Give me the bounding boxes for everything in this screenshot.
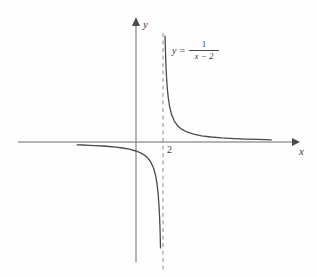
equation-left-side: y xyxy=(172,46,176,56)
equation-fraction: 1 x − 2 xyxy=(189,40,219,61)
graph-figure: y x 2 y = 1 x − 2 xyxy=(0,0,317,277)
y-axis-arrowhead xyxy=(132,17,140,26)
fraction-denominator: x − 2 xyxy=(192,51,217,61)
equation-equals-sign: = xyxy=(179,46,185,56)
x-tick-label-2: 2 xyxy=(167,145,172,155)
curve-equation-label: y = 1 x − 2 xyxy=(172,40,219,61)
x-axis-label: x xyxy=(299,146,304,157)
y-axis-label: y xyxy=(143,19,148,30)
hyperbola-left-branch xyxy=(77,145,160,248)
graph-canvas xyxy=(0,0,317,277)
fraction-numerator: 1 xyxy=(198,40,211,50)
